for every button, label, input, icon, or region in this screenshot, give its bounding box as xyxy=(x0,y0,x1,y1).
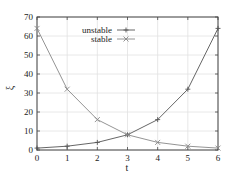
x-tick-label: 2 xyxy=(95,153,100,163)
y-tick-label: 70 xyxy=(24,12,34,22)
x-tick-label: 4 xyxy=(155,153,160,163)
y-tick-label: 20 xyxy=(24,107,34,117)
y-tick-label: 50 xyxy=(24,50,34,60)
legend-label-stable: stable xyxy=(91,34,112,44)
legend: unstablestable xyxy=(82,25,135,44)
x-tick-label: 6 xyxy=(216,153,221,163)
y-tick-label: 40 xyxy=(24,69,34,79)
x-tick-label: 0 xyxy=(35,153,40,163)
line-chart: 0123456010203040506070 unstablestable t … xyxy=(0,0,232,177)
x-axis-label: t xyxy=(126,162,129,173)
y-tick-label: 60 xyxy=(24,31,34,41)
x-tick-label: 5 xyxy=(186,153,191,163)
y-tick-label: 10 xyxy=(24,126,34,136)
x-tick-label: 1 xyxy=(65,153,70,163)
y-axis-label: ξ xyxy=(4,85,16,90)
y-tick-label: 0 xyxy=(29,145,34,155)
y-tick-label: 30 xyxy=(24,88,34,98)
tick-labels: 0123456010203040506070 xyxy=(24,12,221,163)
